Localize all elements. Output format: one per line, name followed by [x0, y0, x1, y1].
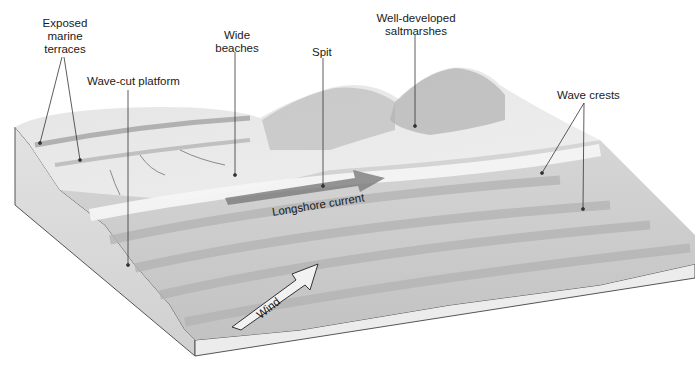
label-wave-crests: Wave crests: [557, 89, 620, 102]
label-line: Well-developed: [376, 12, 456, 25]
block-diagram: [0, 0, 695, 368]
label-wide-beaches: Wide beaches: [212, 29, 262, 55]
label-line: terraces: [40, 43, 90, 56]
label-line: Wide: [212, 29, 262, 42]
label-line: beaches: [212, 42, 262, 55]
label-wave-cut-platform: Wave-cut platform: [87, 75, 180, 88]
label-line: Exposed: [40, 17, 90, 30]
label-line: marine: [40, 30, 90, 43]
label-spit: Spit: [312, 46, 332, 59]
label-exposed-marine-terraces: Exposed marine terraces: [40, 17, 90, 56]
label-line: saltmarshes: [376, 25, 456, 38]
label-saltmarshes: Well-developed saltmarshes: [376, 12, 456, 38]
